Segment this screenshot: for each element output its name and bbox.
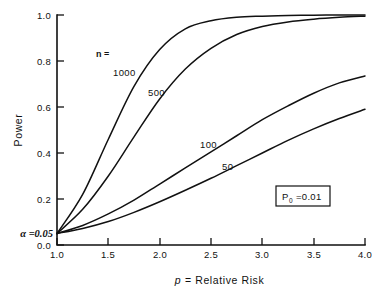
x-tick-label: 1.0 bbox=[50, 249, 64, 260]
y-axis-ticks bbox=[57, 15, 64, 245]
p0-annotation-symbol: P bbox=[282, 191, 289, 202]
y-tick-label: 0.8 bbox=[37, 56, 51, 67]
y-tick-label: 0.4 bbox=[37, 148, 51, 159]
y-axis-title: Power bbox=[12, 114, 24, 147]
curve-n-100 bbox=[57, 76, 365, 234]
y-tick-label: 0.2 bbox=[37, 194, 51, 205]
x-tick-label: 2.5 bbox=[204, 249, 218, 260]
x-axis-ticks bbox=[57, 238, 365, 245]
curve-label-100: 100 bbox=[200, 139, 217, 150]
series-group-label: n = bbox=[96, 49, 109, 59]
x-axis-title-rest: = Relative Risk bbox=[185, 274, 264, 286]
y-tick-label: 0.0 bbox=[37, 240, 51, 251]
alpha-annotation: α =0.05 bbox=[20, 228, 53, 239]
x-tick-label: 4.0 bbox=[358, 249, 372, 260]
p0-annotation-value: =0.01 bbox=[296, 191, 322, 202]
x-tick-label: 1.5 bbox=[101, 249, 115, 260]
curve-n-50 bbox=[57, 109, 365, 233]
p0-annotation-subscript: 0 bbox=[289, 197, 293, 204]
y-tick-label: 1.0 bbox=[37, 10, 51, 21]
x-axis-title-symbol: p bbox=[174, 274, 181, 286]
y-tick-labels: 1.0 0.8 0.6 0.4 0.2 0.0 bbox=[37, 10, 51, 251]
x-tick-labels: 1.0 1.5 2.0 2.5 3.0 3.5 4.0 bbox=[50, 249, 372, 260]
power-curve-chart: 1.0 0.8 0.6 0.4 0.2 0.0 1.0 1.5 2.0 2.5 … bbox=[0, 0, 386, 294]
x-axis-title: p = Relative Risk bbox=[174, 274, 265, 286]
x-tick-label: 2.0 bbox=[153, 249, 167, 260]
chart-svg: 1.0 0.8 0.6 0.4 0.2 0.0 1.0 1.5 2.0 2.5 … bbox=[0, 0, 386, 294]
curve-label-500: 500 bbox=[148, 87, 165, 98]
y-tick-label: 0.6 bbox=[37, 102, 51, 113]
x-tick-label: 3.5 bbox=[307, 249, 321, 260]
curve-label-50: 50 bbox=[222, 161, 233, 172]
curve-label-1000: 1000 bbox=[113, 67, 136, 78]
p0-annotation-box: P 0 =0.01 bbox=[276, 186, 330, 206]
x-tick-label: 3.0 bbox=[255, 249, 269, 260]
